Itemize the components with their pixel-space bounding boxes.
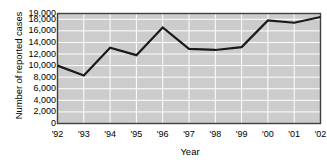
x-tick-label: '94 bbox=[104, 130, 116, 139]
line-chart: Number of reported cases 02,0004,0006,00… bbox=[0, 0, 327, 166]
x-tick-label: '01 bbox=[288, 130, 300, 139]
x-axis-title: Year bbox=[55, 146, 325, 157]
x-tick-label: '93 bbox=[78, 130, 90, 139]
x-tick-label: '92 bbox=[52, 130, 64, 139]
x-tick-label: '00 bbox=[262, 130, 274, 139]
x-tick-label: '95 bbox=[131, 130, 143, 139]
x-tick-label: '98 bbox=[209, 130, 221, 139]
x-tick-label: '99 bbox=[236, 130, 248, 139]
x-tick-label: '97 bbox=[183, 130, 195, 139]
x-axis-tick-labels: '92'93'94'95'96'97'98'99'00'01'02 bbox=[0, 0, 327, 166]
x-tick-label: '02 bbox=[315, 130, 327, 139]
x-tick-label: '96 bbox=[157, 130, 169, 139]
